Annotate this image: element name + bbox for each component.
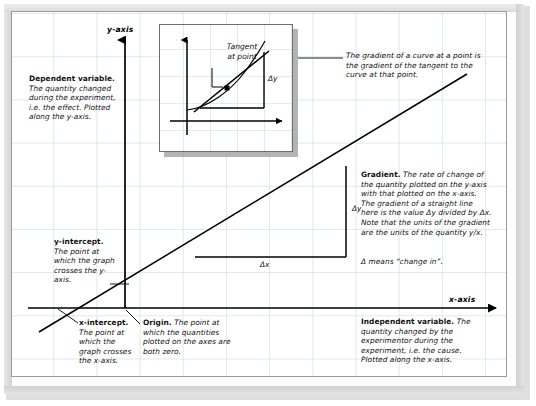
annotation-x-intercept-body: The point at which the graph crosses the…: [79, 328, 131, 366]
annotation-gradient: Gradient. The rate of change of the quan…: [361, 170, 492, 237]
inset-tangent-label-line2: at point: [212, 52, 272, 62]
inset-tangent-label-line1: Tangent: [212, 42, 272, 52]
x-axis-label: x-axis: [449, 295, 475, 304]
inset-panel: Tangent at point Δy: [159, 24, 293, 152]
frame-bevel-right: [516, 4, 524, 394]
annotation-dependent-variable-heading: Dependent variable.: [29, 74, 115, 83]
diagram-root: Tangent at point Δy y-axis x-axis Δy Δx …: [0, 0, 536, 406]
annotation-independent-variable-heading: Independent variable.: [361, 317, 454, 326]
annotation-gradient-heading: Gradient.: [361, 170, 401, 179]
annotation-gradient-footnote: Δ means “change in”.: [361, 257, 492, 267]
annotation-inset-callout: The gradient of a curve at a point is th…: [346, 51, 486, 80]
annotation-x-intercept: x-intercept. The point at which the grap…: [79, 318, 137, 366]
annotation-y-intercept-heading: y-intercept.: [54, 237, 104, 246]
inset-tangency-point: [225, 86, 230, 91]
inset-delta-y-label: Δy: [268, 74, 277, 83]
annotation-origin-heading: Origin.: [143, 318, 172, 327]
annotation-dependent-variable: Dependent variable. The quantity changed…: [29, 74, 129, 122]
annotation-dependent-variable-body: The quantity changed during the experime…: [29, 84, 116, 122]
annotation-origin: Origin. The point at which the quantitie…: [143, 318, 231, 356]
frame-bevel-bottom: [4, 386, 524, 394]
annotation-y-intercept-body: The point at which the graph crosses the…: [54, 247, 115, 285]
graph-paper: Tangent at point Δy y-axis x-axis Δy Δx …: [11, 11, 507, 377]
annotation-y-intercept: y-intercept. The point at which the grap…: [54, 237, 116, 285]
annotation-inset-callout-text: The gradient of a curve at a point is th…: [346, 51, 481, 79]
annotation-gradient-body: The rate of change of the quantity plott…: [361, 170, 492, 237]
delta-x-label: Δx: [260, 260, 269, 269]
inset-tangent-label: Tangent at point: [212, 42, 272, 62]
annotation-independent-variable: Independent variable. The quantity chang…: [361, 317, 483, 365]
annotation-x-intercept-heading: x-intercept.: [79, 318, 128, 327]
inset-tangent-leader: [212, 68, 223, 87]
annotation-gradient-footnote-text: Δ means “change in”.: [361, 257, 443, 266]
y-axis-label: y-axis: [107, 25, 133, 34]
